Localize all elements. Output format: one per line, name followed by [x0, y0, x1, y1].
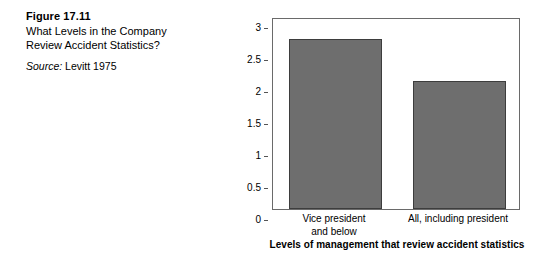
y-axis-tick-label: 3	[255, 23, 261, 33]
y-axis-tick-label: 2	[255, 87, 261, 97]
x-axis-category-label-line: Vice president	[272, 213, 396, 226]
figure-title-line-1: What Levels in the Company	[26, 24, 194, 39]
figure-number: Figure 17.11	[26, 9, 194, 24]
figure-page: Figure 17.11 What Levels in the Company …	[0, 0, 538, 253]
y-axis-title: Lost-time injury frequency (per 200,000 …	[200, 26, 222, 208]
plot-area	[272, 18, 520, 210]
bar-series	[273, 19, 519, 209]
figure-title-line-2: Review Accident Statistics?	[26, 38, 194, 53]
x-axis-category-label: Vice presidentand below	[272, 213, 396, 238]
bar	[289, 39, 382, 209]
y-axis-tick-mark	[264, 188, 268, 189]
bar-chart: Lost-time injury frequency (per 200,000 …	[198, 8, 538, 253]
y-axis-tick-labels: 00.511.522.53	[222, 18, 268, 218]
y-axis-tick-label: 2.5	[247, 55, 261, 65]
bar	[413, 81, 506, 209]
x-axis-category-label-line: All, including president	[396, 213, 520, 226]
x-axis-category-label-line: and below	[272, 226, 396, 239]
y-axis-tick-label: 1	[255, 151, 261, 161]
figure-source: Source: Levitt 1975	[26, 59, 194, 74]
source-label: Source:	[26, 60, 62, 72]
x-axis-title: Levels of management that review acciden…	[258, 239, 536, 250]
y-axis-tick-mark	[264, 220, 268, 221]
y-axis-tick-label: 1.5	[247, 119, 261, 129]
y-axis-tick-mark	[264, 60, 268, 61]
y-axis-tick-mark	[264, 28, 268, 29]
y-axis-tick-mark	[264, 92, 268, 93]
figure-caption: Figure 17.11 What Levels in the Company …	[26, 9, 194, 73]
x-axis-category-label: All, including president	[396, 213, 520, 226]
y-axis-tick-mark	[264, 124, 268, 125]
y-axis-tick-label: 0.5	[247, 183, 261, 193]
y-axis-tick-label: 0	[255, 215, 261, 225]
source-citation: Levitt 1975	[62, 60, 116, 72]
y-axis-tick-mark	[264, 156, 268, 157]
